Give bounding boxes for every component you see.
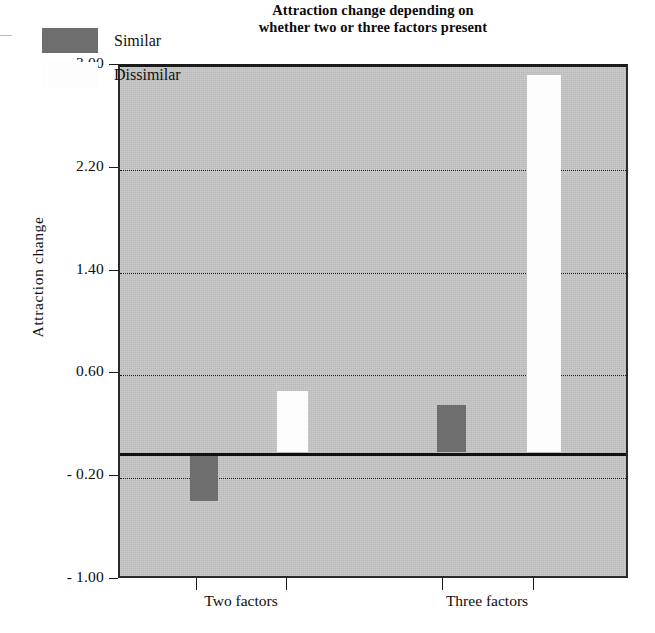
y-tick-label-5: - 1.00 [32,568,104,586]
legend-item-similar: Similar [42,28,181,53]
zero-line [120,453,626,456]
x-tick-label-three-factors: Three factors [417,592,557,610]
chart-title: Attraction change depending on whether t… [118,2,628,36]
bar-two-factors-similar [190,453,218,502]
bar-three-factors-similar [437,405,466,453]
x-tick-mark-3 [533,578,534,590]
y-tick-mark-3 [109,372,118,373]
legend-label-dissimilar: Dissimilar [114,66,181,84]
x-tick-mark-2 [442,578,443,590]
chart-title-line-1: Attraction change depending on [118,2,628,19]
page-edge-artifact [0,35,12,36]
chart-legend: Similar Dissimilar [42,28,181,96]
bar-two-factors-dissimilar [277,391,308,453]
y-tick-label-1: 2.20 [32,157,104,175]
legend-swatch-similar [42,28,98,53]
y-tick-mark-2 [109,270,118,271]
legend-label-similar: Similar [114,32,161,50]
y-tick-label-3: 0.60 [32,362,104,380]
legend-item-dissimilar: Dissimilar [42,62,181,87]
y-tick-mark-1 [109,167,118,168]
legend-swatch-dissimilar [42,62,98,87]
chart-title-line-2: whether two or three factors present [118,19,628,36]
y-tick-mark-4 [109,475,118,476]
y-tick-label-4: - 0.20 [32,465,104,483]
x-tick-label-two-factors: Two factors [171,592,311,610]
plot-area [118,64,628,578]
y-tick-label-2: 1.40 [32,260,104,278]
y-tick-mark-5 [109,578,118,579]
bar-three-factors-dissimilar [527,75,561,453]
x-tick-mark-1 [286,578,287,590]
x-tick-mark-0 [196,578,197,590]
